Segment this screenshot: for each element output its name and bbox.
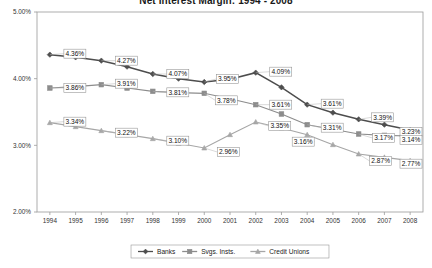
data-label: 3.17%	[359, 134, 395, 143]
data-label: 4.36%	[50, 49, 86, 58]
data-label: 3.86%	[50, 84, 86, 93]
svg-text:4.36%: 4.36%	[66, 50, 85, 57]
x-axis-label: 2007	[377, 217, 392, 224]
data-point	[279, 112, 284, 117]
data-point	[330, 110, 335, 115]
svg-text:3.23%: 3.23%	[402, 128, 421, 135]
data-point	[202, 91, 207, 96]
data-label: 3.81%	[153, 88, 189, 97]
x-axis-label: 1994	[43, 217, 58, 224]
x-axis-label: 1998	[146, 217, 161, 224]
data-label: 4.27%	[101, 56, 137, 65]
svg-text:3.35%: 3.35%	[270, 122, 289, 129]
x-axis-label: 2004	[300, 217, 315, 224]
legend-label: Credit Unions	[269, 248, 310, 255]
data-label: 3.23%	[400, 128, 422, 137]
legend-label: Svgs. Insts.	[201, 248, 235, 256]
data-label: 3.31%	[307, 123, 343, 132]
svg-text:3.39%: 3.39%	[373, 114, 392, 121]
data-label: 4.07%	[153, 70, 189, 79]
data-label: 3.78%	[204, 93, 237, 105]
svg-text:3.31%: 3.31%	[323, 124, 342, 131]
svg-text:3.61%: 3.61%	[323, 100, 342, 107]
x-axis-label: 2000	[197, 217, 212, 224]
y-axis-label: 2.00%	[13, 208, 31, 215]
svg-text:2.96%: 2.96%	[219, 148, 238, 155]
x-axis-label: 2005	[326, 217, 341, 224]
plot-frame	[37, 12, 423, 212]
svg-text:2.87%: 2.87%	[371, 157, 390, 164]
y-axis-label: 4.00%	[13, 75, 31, 82]
svg-text:3.78%: 3.78%	[217, 97, 236, 104]
data-label: 2.96%	[204, 148, 239, 157]
svg-text:3.81%: 3.81%	[168, 89, 187, 96]
svg-text:4.07%: 4.07%	[168, 70, 187, 77]
x-axis-label: 2002	[249, 217, 264, 224]
svg-text:3.61%: 3.61%	[271, 101, 290, 108]
svg-text:3.17%: 3.17%	[374, 134, 393, 141]
data-label: 3.10%	[153, 136, 189, 145]
data-label: 3.61%	[256, 100, 292, 109]
svg-text:2.77%: 2.77%	[402, 160, 421, 167]
data-label: 3.22%	[101, 128, 137, 137]
x-axis-label: 2001	[223, 217, 238, 224]
chart-plot-area: 5.00%4.00%3.00%2.00%19941995199619971998…	[0, 0, 432, 268]
series-line	[50, 55, 410, 130]
svg-text:3.22%: 3.22%	[117, 129, 136, 136]
svg-text:4.27%: 4.27%	[117, 57, 136, 64]
data-label: 2.77%	[400, 159, 422, 168]
data-label: 3.14%	[400, 136, 422, 145]
chart-legend: BanksSvgs. Insts.Credit Unions	[131, 245, 329, 258]
svg-text:3.95%: 3.95%	[218, 75, 237, 82]
svg-text:3.16%: 3.16%	[294, 138, 313, 145]
series-line	[50, 85, 410, 136]
data-label: 3.34%	[50, 117, 86, 126]
y-axis-label: 5.00%	[13, 8, 31, 15]
svg-text:3.10%: 3.10%	[168, 137, 187, 144]
svg-text:3.86%: 3.86%	[66, 84, 85, 91]
x-axis-label: 1996	[94, 217, 109, 224]
data-point	[382, 122, 387, 127]
x-axis-label: 1995	[68, 217, 83, 224]
legend-label: Banks	[157, 248, 176, 255]
x-axis-label: 1999	[171, 217, 186, 224]
svg-text:4.09%: 4.09%	[271, 68, 290, 75]
data-label: 3.91%	[101, 79, 137, 88]
chart-container: Net Interest Margin: 1994 - 2008 5.00%4.…	[0, 0, 432, 268]
y-axis-label: 3.00%	[13, 142, 31, 149]
data-point	[253, 120, 258, 125]
series-banks	[47, 52, 413, 133]
x-axis-label: 2008	[403, 217, 418, 224]
legend-marker	[187, 249, 191, 253]
svg-text:3.34%: 3.34%	[66, 118, 85, 125]
svg-text:3.91%: 3.91%	[117, 80, 136, 87]
x-axis-label: 2006	[352, 217, 367, 224]
data-label: 4.09%	[256, 67, 292, 76]
svg-text:3.14%: 3.14%	[402, 136, 421, 143]
x-axis-label: 2003	[274, 217, 289, 224]
x-axis-label: 1997	[120, 217, 135, 224]
